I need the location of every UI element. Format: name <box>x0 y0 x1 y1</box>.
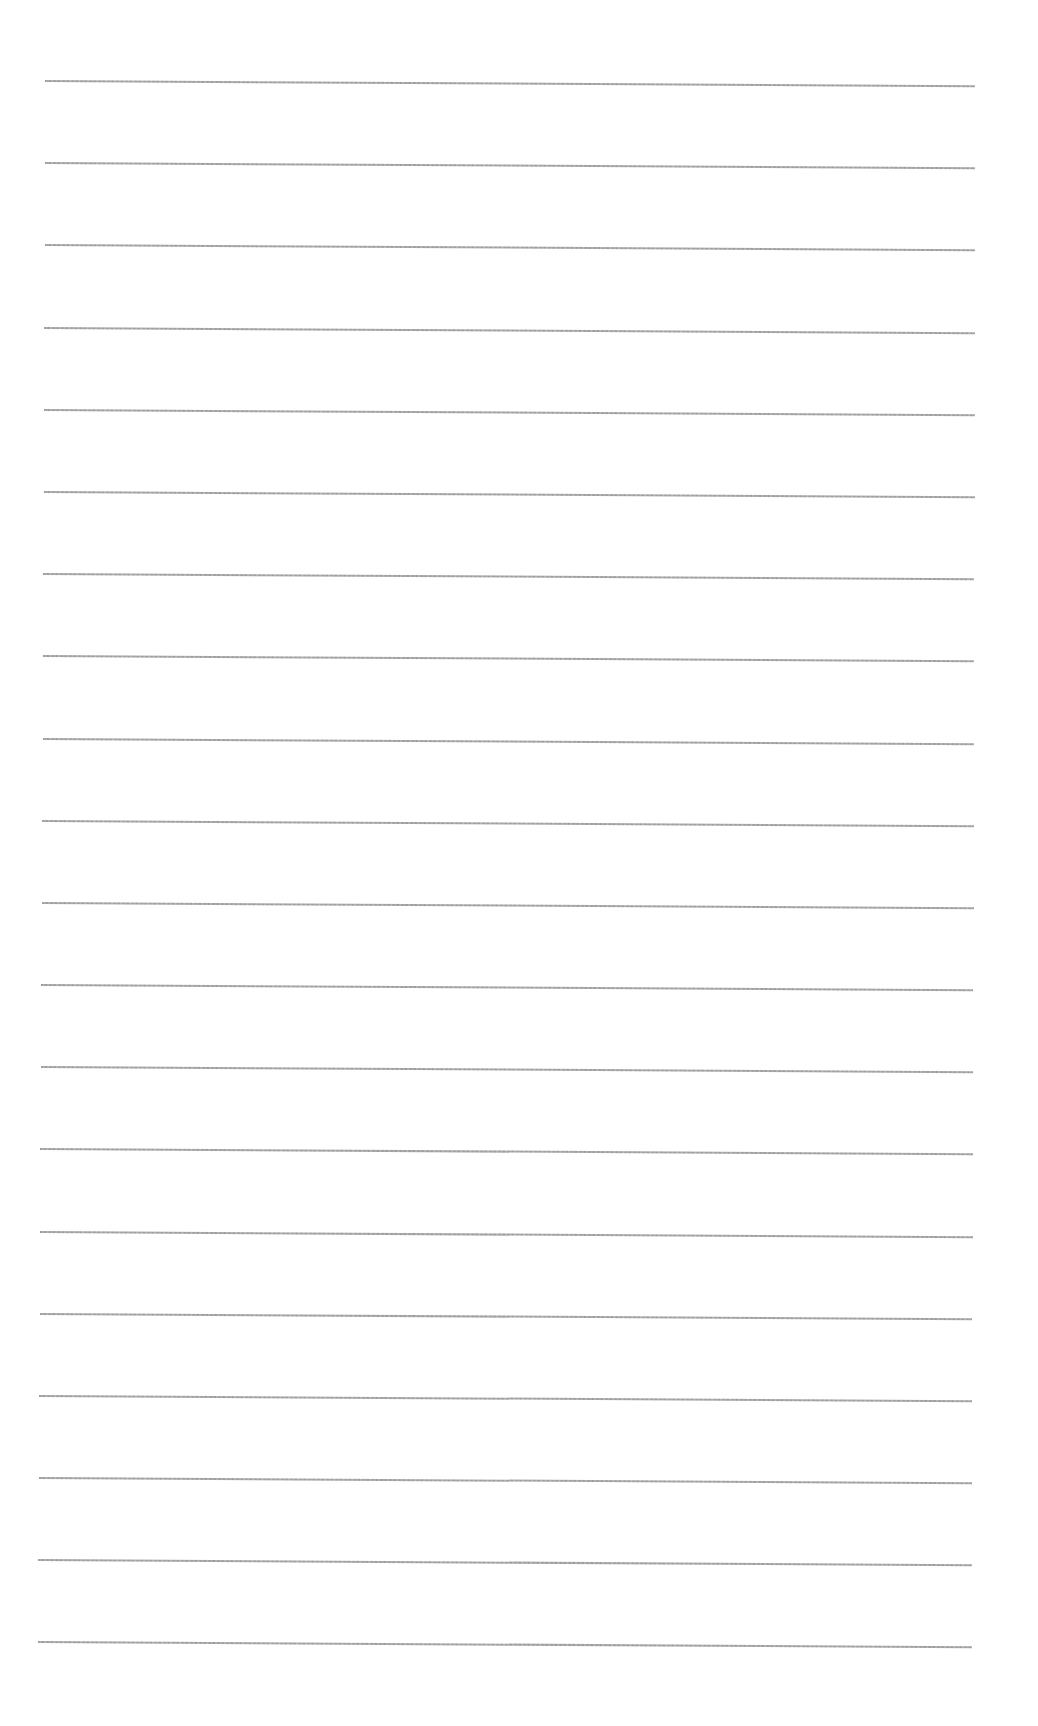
ruled-line <box>45 244 975 251</box>
ruled-paper-page <box>0 0 1038 1726</box>
ruled-line <box>43 655 974 662</box>
ruled-line <box>38 1559 972 1566</box>
ruled-line <box>38 1641 972 1648</box>
ruled-line <box>40 1313 972 1320</box>
ruled-line <box>43 573 974 580</box>
ruled-line <box>39 1395 972 1402</box>
ruled-line <box>42 902 974 909</box>
ruled-line <box>45 162 975 169</box>
ruled-line <box>39 1477 972 1484</box>
ruled-line <box>44 327 975 334</box>
ruled-line <box>44 409 975 416</box>
ruled-line <box>40 1231 973 1238</box>
ruled-line <box>44 491 975 498</box>
ruled-line <box>41 1066 973 1073</box>
ruled-line <box>42 820 974 827</box>
ruled-line <box>41 984 973 991</box>
ruled-line <box>43 738 974 745</box>
ruled-line <box>40 1148 973 1155</box>
ruled-line <box>45 80 975 87</box>
